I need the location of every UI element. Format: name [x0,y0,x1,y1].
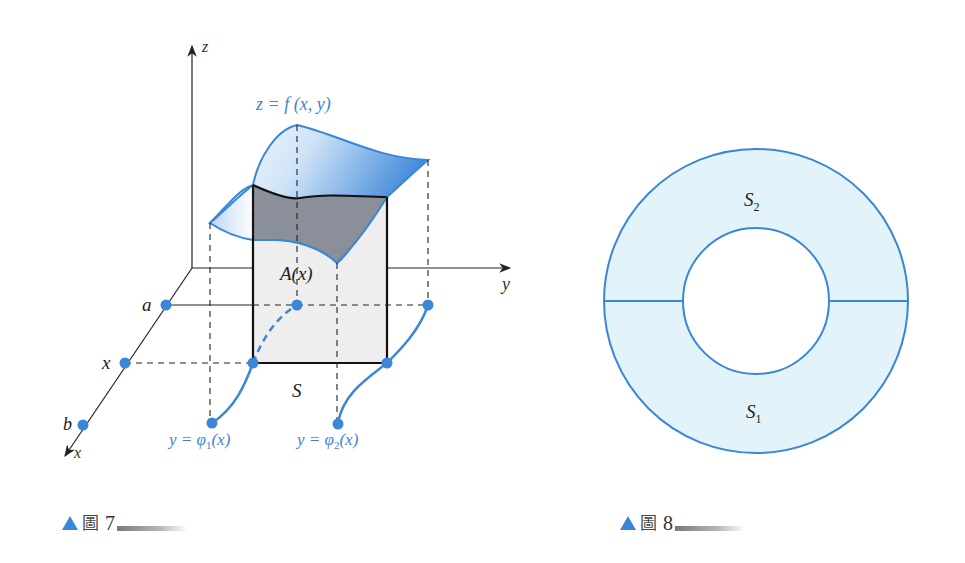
point-phi1-end [207,418,218,429]
x-axis-label: x [73,444,81,461]
phi1-curve [212,363,253,423]
point-rect-bottom-left [248,358,259,369]
label-a: a [142,294,152,315]
figure-number: 8 [663,513,673,533]
phi1-label: y = φ1(x) [167,430,231,451]
point-b [78,420,89,431]
figure-number: 7 [105,513,115,533]
label-x: x [101,352,111,373]
phi2-label: y = φ2(x) [295,430,359,451]
point-right-top [423,300,434,311]
figure-7: z y x z = f (x, y) A(x) S a x b y = φ1(x… [63,38,510,461]
figure-canvas: z y x z = f (x, y) A(x) S a x b y = φ1(x… [0,0,965,563]
point-phi2-end [333,419,344,430]
region-label: S [292,380,302,401]
cross-section-label: A(x) [278,263,313,285]
point-x [120,358,131,369]
label-b: b [63,414,72,434]
figure-8-caption: 圖 8 [620,511,745,535]
y-axis-label: y [500,274,510,294]
figure-7-caption: 圖 7 [62,511,187,535]
caption-bar [117,526,187,531]
triangle-icon [620,516,636,530]
figure-glyph: 圖 [82,515,99,532]
triangle-icon [62,516,78,530]
figure-glyph: 圖 [640,515,657,532]
figure-8: S2 S1 [604,149,908,453]
point-a [161,300,172,311]
point-ax [292,300,303,311]
inner-circle [683,228,829,374]
surface-label: z = f (x, y) [255,94,331,115]
surface-left-edge [210,185,253,240]
z-axis-label: z [201,38,209,55]
point-rect-bottom-right [382,358,393,369]
caption-bar [675,526,745,531]
